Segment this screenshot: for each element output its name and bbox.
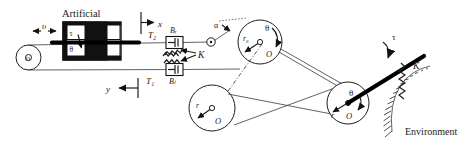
tension-bottom-label: T₁ [146,76,154,86]
artificial-title: Artificial [62,8,101,19]
drive-pulley-left-label: O [25,55,30,63]
velocity-label: υ [42,21,46,31]
axis-y: y [105,78,138,98]
mechanism-diagram: O υ Artificial [0,0,467,145]
spring-bottom [164,60,180,63]
tau-actuator-label: τ [70,29,73,38]
belt-cross-b [234,86,340,125]
velocity-arrow: υ [33,21,56,31]
spring-top [163,49,183,56]
spring-K-callout: K [181,50,205,61]
belt-upper-incline [215,30,231,41]
damper-top-label: Bᵣ [170,26,177,35]
belt-upper-mid [183,42,208,43]
belt-lower-left [29,70,177,71]
theta-drive-label: θ [265,23,269,33]
center-load-label: O [346,111,352,121]
environment-label: Environment [405,126,457,137]
belt-cross-a [228,94,342,116]
diagram-canvas: O υ Artificial [0,0,467,145]
tau-load-label: τ [392,32,396,42]
damper-bottom: Bₗ [166,64,183,87]
theta-actuator-label: θ [70,45,74,54]
belt-drive-load-b [281,49,344,85]
theta-load-label: θ [349,88,353,98]
drive-pulley-left: O [16,45,41,70]
axis-y-label: y [105,84,110,94]
alpha-label: α [214,21,219,30]
axis-x-label: x [157,19,162,29]
belt-drive-load-a [279,52,341,88]
tension-top-label: T₂ [148,30,156,40]
center-idler-label: O [215,116,221,126]
pulley-drive: θ r₀ O [238,20,282,64]
belt-roller [207,38,215,46]
radius-idler-label: r [196,101,199,110]
damper-top: Bᵣ [166,26,183,49]
pulley-idler: r O [189,85,235,131]
tau-load-arrow: τ [383,32,396,58]
belt-lower-mid [183,69,240,70]
spring-K-label: K [197,50,205,60]
radius-drive-label: r₀ [243,34,249,43]
damper-bottom-label: Bₗ [169,77,176,86]
center-drive-label: O [266,49,272,59]
